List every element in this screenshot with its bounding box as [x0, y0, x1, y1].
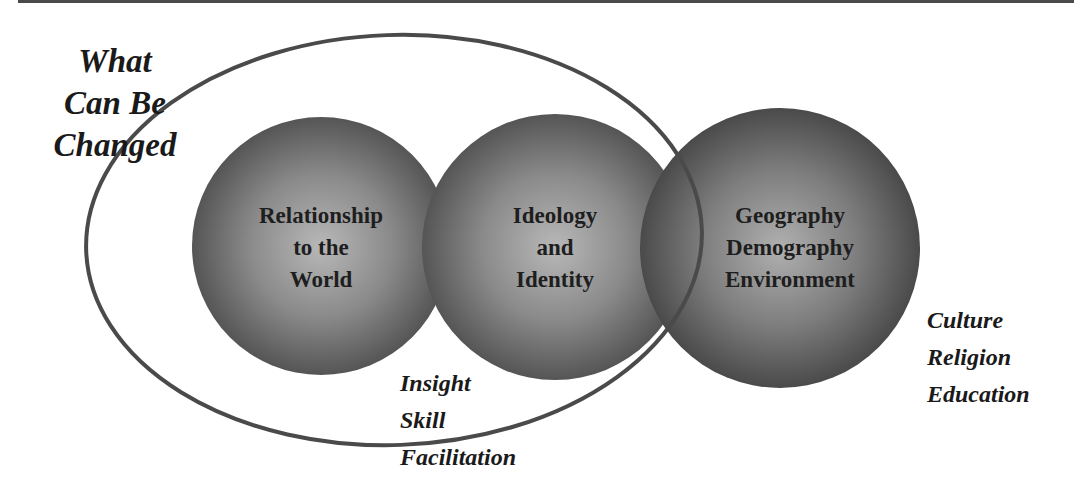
label-line: Relationship [231, 200, 411, 232]
label-line: Identity [475, 264, 635, 296]
label-geography: Geography Demography Environment [700, 200, 880, 296]
factor-insight: Insight [400, 365, 516, 402]
title-line-3: Changed [30, 124, 200, 166]
fixed-factors-list: Culture Religion Education [927, 302, 1030, 413]
label-line: Geography [700, 200, 880, 232]
label-relationship: Relationship to the World [231, 200, 411, 296]
label-line: Environment [700, 264, 880, 296]
factor-education: Education [927, 376, 1030, 413]
factor-culture: Culture [927, 302, 1030, 339]
factor-religion: Religion [927, 339, 1030, 376]
what-can-be-changed-title: What Can Be Changed [30, 40, 200, 166]
factor-facilitation: Facilitation [400, 439, 516, 476]
changeable-factors-list: Insight Skill Facilitation [400, 365, 516, 476]
label-ideology: Ideology and Identity [475, 200, 635, 296]
label-line: Demography [700, 232, 880, 264]
label-line: Ideology [475, 200, 635, 232]
label-line: to the [231, 232, 411, 264]
label-line: World [231, 264, 411, 296]
title-line-1: What [30, 40, 200, 82]
factor-skill: Skill [400, 402, 516, 439]
label-line: and [475, 232, 635, 264]
title-line-2: Can Be [30, 82, 200, 124]
